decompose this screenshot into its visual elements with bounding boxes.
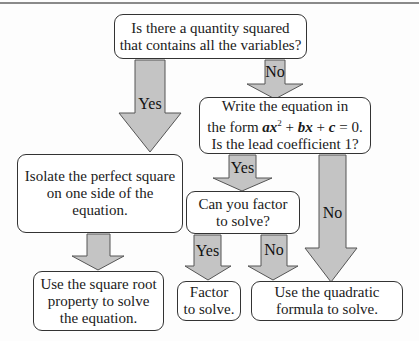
- node-factor-line2: to solve.: [184, 301, 235, 318]
- term-b: bx: [298, 119, 313, 135]
- node-start-question: Is there a quantity squared that contain…: [114, 14, 307, 59]
- node-can-factor: Can you factor to solve?: [186, 191, 300, 234]
- node-factor-line1: Factor: [184, 284, 235, 301]
- node-standard-form: Write the equation in the form ax2 + bx …: [199, 97, 371, 154]
- edge-label-lead-yes: Yes: [228, 160, 257, 176]
- plus-1: +: [282, 119, 298, 135]
- edge-label-start-yes: Yes: [135, 96, 165, 112]
- arrow-isolate-down: [72, 234, 124, 270]
- node-isolate-line2: on one side of the equation.: [18, 185, 182, 219]
- node-square-root-line3: the equation.: [40, 310, 156, 327]
- node-square-root-line2: property to solve: [40, 293, 156, 310]
- node-standard-form-line1: Write the equation in: [207, 98, 362, 115]
- edge-label-factor-yes: Yes: [192, 243, 223, 259]
- edge-label-start-no: No: [264, 64, 286, 80]
- node-quadratic-formula-line2: formula to solve.: [275, 301, 380, 318]
- node-square-root: Use the square root property to solve th…: [33, 271, 164, 331]
- term-a: ax: [262, 119, 277, 135]
- form-prefix: the form: [207, 119, 262, 135]
- node-standard-form-line2: the form ax2 + bx + c = 0.: [207, 115, 362, 136]
- node-quadratic-formula-line1: Use the quadratic: [275, 284, 380, 301]
- node-factor: Factor to solve.: [177, 281, 241, 321]
- node-start-line1: Is there a quantity squared: [120, 20, 302, 37]
- node-start-line2: that contains all the variables?: [120, 37, 302, 54]
- node-isolate: Isolate the perfect square on one side o…: [17, 154, 183, 233]
- node-can-factor-line2: to solve?: [198, 213, 287, 230]
- node-can-factor-line1: Can you factor: [198, 196, 287, 213]
- equals-zero: = 0.: [335, 119, 362, 135]
- node-isolate-line1: Isolate the perfect square: [18, 168, 182, 185]
- plus-2: +: [313, 119, 329, 135]
- edge-label-factor-no: No: [261, 242, 287, 258]
- flowchart-canvas: Yes No Yes No Yes No Is there a quantity…: [0, 0, 419, 341]
- node-square-root-line1: Use the square root: [40, 276, 156, 293]
- node-quadratic-formula: Use the quadratic formula to solve.: [251, 281, 403, 321]
- node-standard-form-line3: Is the lead coefficient 1?: [207, 136, 362, 153]
- edge-label-lead-no: No: [319, 205, 346, 221]
